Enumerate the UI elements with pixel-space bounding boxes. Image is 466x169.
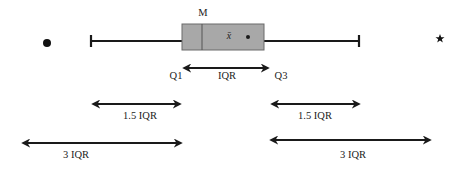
right-whisker <box>264 35 359 47</box>
median-label: M <box>198 7 207 18</box>
mean-label: x̄ <box>227 30 231 41</box>
left-1-5-iqr-label: 1.5 IQR <box>123 110 157 121</box>
iqr-label: IQR <box>218 70 236 81</box>
right-1-5-iqr-label: 1.5 IQR <box>298 110 332 121</box>
q3-label: Q3 <box>275 70 288 81</box>
iqr-box <box>182 24 264 50</box>
left-whisker <box>91 35 182 47</box>
q1-label: Q1 <box>170 70 183 81</box>
right-3-iqr-label: 3 IQR <box>340 149 366 160</box>
boxplot-diagram <box>0 0 466 169</box>
outlier-star-icon <box>436 34 445 43</box>
left-3-iqr-label: 3 IQR <box>63 149 89 160</box>
outlier-circle-icon <box>43 39 51 47</box>
mean-dot-icon <box>246 35 250 39</box>
